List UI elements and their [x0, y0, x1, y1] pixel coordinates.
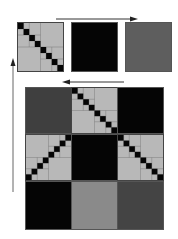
- top-gray-square: [125, 22, 172, 72]
- right-arrow-icon: [56, 15, 138, 23]
- grid-cell-r3c3: [117, 181, 164, 230]
- top-black-square: [71, 22, 118, 72]
- top-diagonal-matrix: [17, 22, 64, 72]
- anti-diagonal-pattern-icon: [26, 135, 71, 180]
- grid-cell-r1c2: [71, 87, 118, 134]
- left-arrow-icon: [62, 78, 124, 86]
- grid-cell-r2c1: [25, 134, 72, 181]
- diagonal-pattern-icon: [118, 135, 163, 180]
- grid-cell-r1c1: [25, 87, 72, 134]
- grid-cell-r3c2: [71, 181, 118, 230]
- grid-cell-r3c1: [25, 181, 72, 230]
- diagonal-pattern-icon: [72, 88, 117, 133]
- diagonal-pattern-icon: [18, 23, 63, 71]
- up-arrow-icon: [9, 58, 17, 192]
- grid-cell-r2c3: [117, 134, 164, 181]
- grid-cell-r2c2: [71, 134, 118, 181]
- grid-cell-r1c3: [117, 87, 164, 134]
